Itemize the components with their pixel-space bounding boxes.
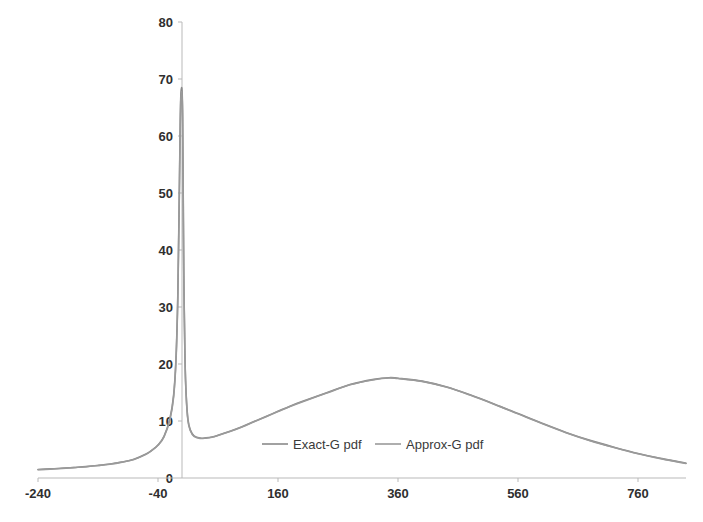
x-axis: -240-40160360560760 xyxy=(25,478,686,501)
y-tick-label: 80 xyxy=(159,15,173,30)
series-line-2 xyxy=(38,92,686,470)
x-tick-label: 760 xyxy=(627,486,649,501)
x-tick-label: 560 xyxy=(507,486,529,501)
x-tick-label: 160 xyxy=(267,486,289,501)
y-tick-label: 20 xyxy=(159,357,173,372)
x-tick-label: -40 xyxy=(149,486,168,501)
y-tick-label: 40 xyxy=(159,243,173,258)
series-layer xyxy=(38,88,686,470)
chart-container: 01020304050607080 -240-40160360560760 Ex… xyxy=(0,0,703,522)
chart-legend: Exact-G pdfApprox-G pdf xyxy=(262,437,484,452)
y-tick-label: 70 xyxy=(159,72,173,87)
x-tick-label: 360 xyxy=(387,486,409,501)
legend-label: Exact-G pdf xyxy=(293,437,362,452)
y-tick-label: 60 xyxy=(159,129,173,144)
series-line-1 xyxy=(38,88,686,470)
y-tick-label: 50 xyxy=(159,186,173,201)
line-chart: 01020304050607080 -240-40160360560760 Ex… xyxy=(0,0,703,522)
legend-label: Approx-G pdf xyxy=(406,437,484,452)
y-tick-label: 30 xyxy=(159,300,173,315)
x-tick-label: -240 xyxy=(25,486,51,501)
